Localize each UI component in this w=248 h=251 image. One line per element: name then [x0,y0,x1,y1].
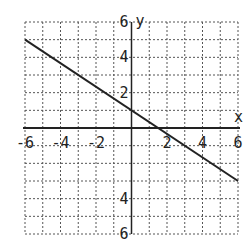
axes [23,22,240,234]
y-tick-label: 2 [119,84,128,102]
x-tick-label: 6 [233,134,242,152]
x-tick-label: -2 [87,134,105,152]
x-axis-label: x [234,108,243,126]
y-tick-label: 6 [119,225,128,243]
coordinate-plane: -6-4-224664246 x y [0,0,248,251]
x-tick-label: 4 [198,134,207,152]
y-tick-label: 4 [119,48,128,66]
y-tick-label: 6 [119,13,128,31]
y-axis-label: y [136,12,145,30]
x-tick-label: -4 [51,134,69,152]
x-tick-label: -6 [16,134,34,152]
y-tick-label: 4 [119,190,128,208]
